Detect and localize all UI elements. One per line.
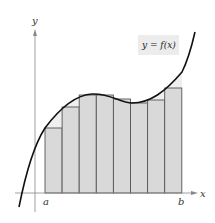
riemann-sum-figure: y x a b y = f(x) — [0, 0, 215, 223]
function-label: y = f(x) — [141, 40, 176, 50]
y-axis-arrow-icon — [33, 29, 37, 36]
x-axis-arrow-icon — [191, 191, 198, 195]
rectangle-3 — [79, 95, 96, 193]
rectangle-4 — [96, 95, 113, 193]
interval-start-label: a — [43, 196, 49, 207]
rectangle-6 — [131, 103, 148, 193]
rectangle-2 — [62, 107, 79, 193]
rectangle-1 — [45, 128, 62, 193]
x-axis-label: x — [200, 188, 206, 199]
rectangle-5 — [113, 99, 130, 193]
rectangle-7 — [148, 100, 165, 193]
interval-end-label: b — [178, 196, 184, 207]
y-axis-label: y — [31, 15, 38, 26]
rectangle-8 — [165, 88, 182, 193]
riemann-rectangles — [45, 88, 182, 193]
